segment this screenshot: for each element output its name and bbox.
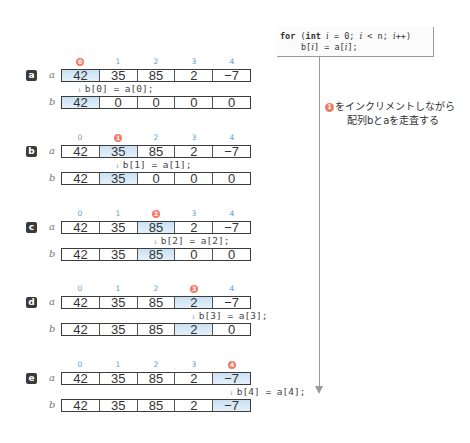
code-token: ] = a[ bbox=[314, 42, 345, 52]
index-label: 1 bbox=[99, 360, 137, 370]
array-cell: −7 bbox=[212, 400, 250, 411]
array-cell: 85 bbox=[137, 297, 175, 308]
index-label: 0 bbox=[61, 360, 99, 370]
array-cell: −7 bbox=[212, 297, 250, 308]
flow-arrow-down-icon bbox=[315, 386, 323, 394]
array-cell: 35 bbox=[99, 373, 137, 384]
array-a-label: a bbox=[49, 69, 55, 81]
array-cell: 42 bbox=[62, 249, 99, 260]
array-cell: 42 bbox=[62, 146, 99, 157]
step-e: 0 1 2 3 4 e a 42 35 85 2 −7 ↓b[4] = a[4]… bbox=[0, 360, 300, 416]
array-cell: 0 bbox=[212, 324, 250, 335]
index-labels: 0 1 2 3 4 bbox=[61, 284, 251, 294]
current-index-marker-icon: 4 bbox=[228, 361, 236, 369]
current-index-marker-icon: 3 bbox=[190, 285, 198, 293]
array-cell: 35 bbox=[99, 173, 137, 184]
array-a: 42 35 85 2 −7 bbox=[61, 145, 251, 158]
down-arrow-icon: ↓ bbox=[191, 312, 196, 321]
code-token: < n; bbox=[362, 31, 393, 41]
keyword-int: int bbox=[306, 31, 321, 41]
array-b: 42 35 85 2 −7 bbox=[61, 399, 251, 412]
array-cell: 42 bbox=[62, 70, 99, 81]
index-labels: 0 1 2 3 4 bbox=[61, 209, 251, 219]
index-label: 3 bbox=[175, 209, 213, 219]
array-a-label: a bbox=[49, 221, 55, 233]
code-token: b[ bbox=[301, 42, 311, 52]
array-b-label: b bbox=[49, 248, 55, 260]
array-cell: 2 bbox=[174, 70, 212, 81]
index-label: 3 bbox=[175, 360, 213, 370]
array-cell: 85 bbox=[137, 373, 175, 384]
array-a: 42 35 85 2 −7 bbox=[61, 69, 251, 82]
index-label: 4 bbox=[213, 209, 251, 219]
marker-circle-icon: 1 bbox=[325, 103, 334, 112]
index-current: 4 bbox=[213, 360, 251, 370]
array-cell: 0 bbox=[212, 249, 250, 260]
index-label: 0 bbox=[61, 133, 99, 143]
index-current: 2 bbox=[137, 209, 175, 219]
index-label: 2 bbox=[137, 133, 175, 143]
step-badge: e bbox=[26, 373, 37, 384]
assignment-text: b[4] = a[4]; bbox=[237, 386, 306, 397]
index-label: 0 bbox=[61, 209, 99, 219]
step-c: 0 1 2 3 4 c a 42 35 85 2 −7 ↓b[2] = a[2]… bbox=[0, 209, 300, 265]
array-a: 42 35 85 2 −7 bbox=[61, 221, 251, 234]
index-labels: 0 1 2 3 4 bbox=[61, 133, 251, 143]
array-cell: 42 bbox=[62, 97, 99, 108]
assignment-text: b[1] = a[1]; bbox=[123, 159, 192, 170]
array-b: 42 0 0 0 0 bbox=[61, 96, 251, 109]
array-cell: 42 bbox=[62, 324, 99, 335]
array-cell: 2 bbox=[174, 146, 212, 157]
step-d: 0 1 2 3 4 d a 42 35 85 2 −7 ↓b[3] = a[3]… bbox=[0, 284, 300, 340]
code-token: ]; bbox=[347, 42, 357, 52]
index-label: 2 bbox=[137, 284, 175, 294]
array-b-label: b bbox=[49, 399, 55, 411]
array-cell: 35 bbox=[99, 222, 137, 233]
array-cell: 0 bbox=[174, 173, 212, 184]
array-cell: 35 bbox=[99, 297, 137, 308]
array-cell: 2 bbox=[174, 373, 212, 384]
array-cell: 42 bbox=[62, 297, 99, 308]
down-arrow-icon: ↓ bbox=[229, 388, 234, 397]
step-badge: a bbox=[26, 70, 37, 81]
assignment-text: b[3] = a[3]; bbox=[199, 310, 268, 321]
array-a: 42 35 85 2 −7 bbox=[61, 372, 251, 385]
step-badge: b bbox=[26, 146, 37, 157]
array-b-label: b bbox=[49, 172, 55, 184]
array-cell: 85 bbox=[137, 249, 175, 260]
code-token: = 0; bbox=[329, 31, 360, 41]
array-cell: 2 bbox=[174, 400, 212, 411]
array-a: 42 35 85 2 −7 bbox=[61, 296, 251, 309]
step-badge: c bbox=[26, 222, 37, 233]
assignment-text: b[2] = a[2]; bbox=[161, 235, 230, 246]
index-label: 1 bbox=[99, 209, 137, 219]
array-cell: 0 bbox=[137, 97, 175, 108]
array-b: 42 35 0 0 0 bbox=[61, 172, 251, 185]
array-b-label: b bbox=[49, 96, 55, 108]
array-cell: 2 bbox=[174, 222, 212, 233]
code-line-1: for (int i = 0; i < n; i++) bbox=[280, 31, 411, 41]
array-cell: −7 bbox=[212, 222, 250, 233]
annotation-line-1: 1をインクリメントしながら bbox=[325, 101, 455, 113]
step-badge: d bbox=[26, 297, 37, 308]
annotation-line-2: 配列bとaを走査する bbox=[347, 115, 439, 127]
array-cell: 85 bbox=[137, 400, 175, 411]
assignment-text: b[0] = a[0]; bbox=[85, 83, 154, 94]
array-cell: 42 bbox=[62, 400, 99, 411]
array-cell: 85 bbox=[137, 222, 175, 233]
index-labels: 0 1 2 3 4 bbox=[61, 57, 251, 67]
array-cell: 0 bbox=[174, 249, 212, 260]
code-token: ++) bbox=[396, 31, 411, 41]
index-label: 4 bbox=[213, 133, 251, 143]
index-label: 2 bbox=[137, 360, 175, 370]
array-cell: 0 bbox=[99, 97, 137, 108]
index-label: 0 bbox=[61, 284, 99, 294]
keyword-for: for bbox=[280, 31, 295, 41]
array-a-label: a bbox=[49, 145, 55, 157]
current-index-marker-icon: 0 bbox=[76, 58, 84, 66]
index-label: 4 bbox=[213, 57, 251, 67]
array-cell: −7 bbox=[212, 70, 250, 81]
step-a: 0 1 2 3 4 a a 42 35 85 2 −7 ↓b[0] = a[0]… bbox=[0, 57, 300, 113]
array-cell: 42 bbox=[62, 222, 99, 233]
index-current: 3 bbox=[175, 284, 213, 294]
